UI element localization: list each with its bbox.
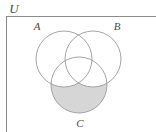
universal-set-label: U — [9, 1, 20, 16]
venn-diagram-canvas: U A B C — [0, 0, 156, 132]
set-c-label: C — [76, 117, 84, 129]
set-a-label: A — [33, 20, 41, 32]
shaded-region-c-only — [0, 0, 156, 132]
set-b-label: B — [114, 20, 121, 32]
venn-diagram-figure: U A B C — [0, 0, 156, 132]
